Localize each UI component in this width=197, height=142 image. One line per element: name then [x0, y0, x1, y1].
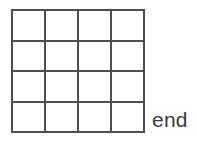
grid-cell[interactable] — [112, 42, 145, 73]
grid-cell[interactable] — [13, 11, 46, 42]
grid-cell[interactable] — [112, 11, 145, 42]
grid-cell[interactable] — [46, 72, 79, 103]
grid-cell[interactable] — [112, 72, 145, 103]
end-label: end — [152, 106, 197, 134]
grid-cell[interactable] — [13, 72, 46, 103]
grid-cell[interactable] — [46, 42, 79, 73]
grid-cell[interactable] — [79, 72, 112, 103]
grid-cell[interactable] — [112, 103, 145, 134]
grid-cell[interactable] — [46, 11, 79, 42]
grid-cell[interactable] — [46, 103, 79, 134]
grid-container — [11, 9, 145, 133]
grid-diagram: end — [0, 0, 197, 142]
grid-cell[interactable] — [79, 103, 112, 134]
grid-cell[interactable] — [79, 42, 112, 73]
grid-cell[interactable] — [13, 42, 46, 73]
grid-cell[interactable] — [79, 11, 112, 42]
grid-cell[interactable] — [13, 103, 46, 134]
